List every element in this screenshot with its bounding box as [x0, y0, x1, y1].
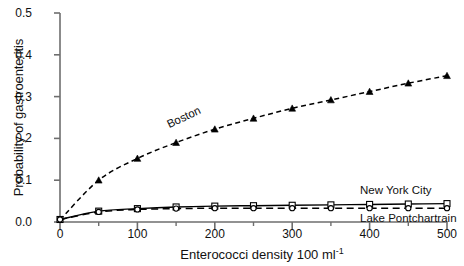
data-point-marker: [367, 206, 372, 211]
data-point-marker: [290, 206, 295, 211]
data-point-marker: [251, 206, 256, 211]
data-point-marker: [444, 206, 449, 211]
data-point-marker: [406, 206, 411, 211]
data-point-marker: [134, 155, 141, 161]
series-line-boston: [60, 76, 447, 220]
data-point-marker: [173, 139, 180, 145]
plot-area: [0, 0, 464, 266]
data-point-marker: [96, 209, 101, 214]
data-point-marker: [135, 207, 140, 212]
data-point-marker: [174, 206, 179, 211]
chart-figure: Probability of gastroenteritis Enterococ…: [0, 0, 464, 266]
data-point-marker: [95, 177, 102, 183]
series-label-lake-pontchartrain: Lake Pontchartrain: [360, 212, 457, 224]
data-point-marker: [57, 217, 62, 222]
data-point-marker: [211, 126, 218, 132]
data-point-marker: [328, 206, 333, 211]
data-point-marker: [212, 206, 217, 211]
series-label-new-york-city: New York City: [360, 184, 432, 196]
